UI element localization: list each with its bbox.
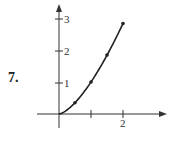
graph: 2 1 2 3 — [0, 0, 186, 144]
data-point — [73, 101, 77, 105]
data-point — [121, 22, 125, 26]
x-axis-arrow-icon — [159, 111, 167, 117]
y-tick-label-2: 2 — [64, 45, 70, 57]
x-tick-label-2: 2 — [120, 117, 126, 129]
curve-line — [59, 23, 123, 114]
y-axis-arrow-icon — [56, 4, 62, 12]
data-point — [105, 53, 109, 57]
y-tick-label-3: 3 — [64, 13, 70, 25]
y-tick-label-1: 1 — [64, 77, 70, 89]
data-point — [89, 80, 93, 84]
